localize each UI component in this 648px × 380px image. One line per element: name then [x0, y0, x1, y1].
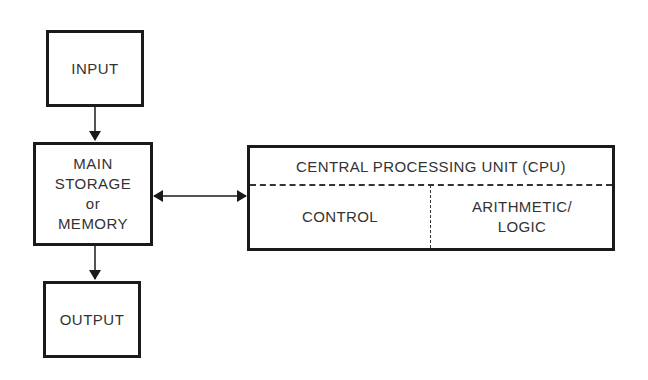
memory-line1: MAIN: [55, 154, 132, 174]
cpu-control-section: CONTROL: [250, 186, 430, 248]
output-box: OUTPUT: [43, 281, 141, 358]
cpu-box: CENTRAL PROCESSING UNIT (CPU) CONTROL AR…: [247, 145, 615, 251]
memory-line2: STORAGE: [55, 174, 132, 194]
input-box: INPUT: [46, 30, 144, 107]
cpu-vertical-divider: [430, 185, 431, 248]
input-label: INPUT: [71, 59, 119, 79]
alu-line2: LOGIC: [472, 217, 572, 237]
memory-line4: MEMORY: [55, 214, 132, 234]
control-label: CONTROL: [302, 207, 378, 227]
alu-label: ARITHMETIC/ LOGIC: [472, 197, 572, 237]
cpu-title: CENTRAL PROCESSING UNIT (CPU): [250, 148, 612, 184]
output-label: OUTPUT: [60, 310, 125, 330]
alu-line1: ARITHMETIC/: [472, 197, 572, 217]
cpu-alu-section: ARITHMETIC/ LOGIC: [432, 186, 612, 248]
memory-line3: or: [55, 194, 132, 214]
main-storage-box: MAIN STORAGE or MEMORY: [33, 142, 153, 246]
main-storage-label: MAIN STORAGE or MEMORY: [55, 154, 132, 234]
